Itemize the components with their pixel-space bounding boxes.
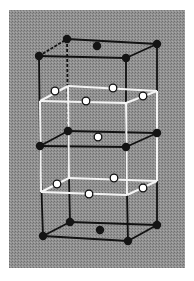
corner-atom: [35, 52, 43, 60]
edge-open-atom: [110, 174, 118, 182]
corner-atom: [66, 218, 74, 226]
edge-open-atom: [139, 184, 147, 192]
corner-atom: [63, 35, 71, 43]
corner-atom: [153, 221, 161, 229]
corner-atom: [124, 237, 132, 245]
edge-open-atom: [53, 180, 61, 188]
corner-atom: [36, 142, 44, 150]
black-edge: [40, 146, 126, 147]
edge-open-atom: [139, 92, 147, 100]
corner-atom: [64, 127, 72, 135]
edge-open-atom: [109, 84, 117, 92]
corner-atom: [122, 143, 130, 151]
face-center-atom: [93, 42, 101, 50]
crystal-unit-cell-figure: [0, 0, 194, 281]
body-center-open-atom: [94, 133, 102, 141]
corner-atom: [39, 232, 47, 240]
edge-open-atom: [85, 190, 93, 198]
corner-atom: [122, 54, 130, 62]
face-center-atom: [96, 226, 104, 234]
edge-open-atom: [82, 97, 90, 105]
corner-atom: [153, 40, 161, 48]
edge-open-atom: [51, 87, 59, 95]
corner-atom: [153, 129, 161, 137]
